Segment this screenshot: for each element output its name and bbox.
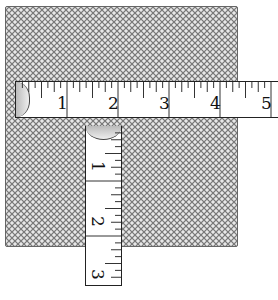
tape-label-2: 2 [89,216,106,227]
tape-label-3: 3 [89,269,106,280]
horizontal-tape-ticks [16,82,278,117]
tape-label-1: 1 [89,161,106,172]
tape-label-1: 1 [57,95,68,112]
vertical-tape-ticks [86,126,121,285]
tape-label-5: 5 [261,95,272,112]
tape-label-3: 3 [159,95,170,112]
tape-label-4: 4 [210,95,221,112]
vertical-tape-measure: 1 2 3 [85,126,122,286]
horizontal-tape-measure: 1 2 3 4 5 [15,81,278,118]
tape-label-2: 2 [108,95,119,112]
